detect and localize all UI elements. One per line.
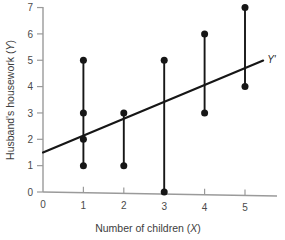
regression-scatter-chart: 01234567 012345 Y' Number of children (X… [0,0,285,240]
regression-line [43,61,263,153]
x-tick-label: 3 [161,201,167,212]
data-point [80,162,87,169]
data-point [80,136,87,143]
x-tick-label: 1 [81,200,87,211]
x-tick-label: 2 [121,200,127,211]
x-axis-line [43,192,277,196]
plot-area: 01234567 012345 Y' Number of children (X… [0,0,285,240]
axes-group [43,7,277,196]
y-tick-label: 7 [27,2,33,13]
y-axis-ticks [37,8,43,192]
y-axis-title: Husband's housework (Y) [4,40,16,160]
regression-line-label: Y' [267,54,277,65]
data-point [80,109,87,116]
x-tick-label: 4 [202,202,208,213]
x-tick-label: 0 [40,199,46,210]
y-tick-label: 1 [27,160,33,171]
data-point [120,162,127,169]
y-tick-label: 4 [27,81,33,92]
data-point [161,189,168,196]
data-point [201,30,208,37]
y-tick-label: 5 [27,55,33,66]
residual-segments [83,8,245,192]
data-point [80,57,87,64]
y-axis-tick-labels: 01234567 [27,2,33,197]
x-axis-title: Number of children (X) [95,222,201,234]
y-tick-label: 3 [27,108,33,119]
data-point [201,109,208,116]
data-point [161,57,168,64]
data-point [242,83,249,90]
y-tick-label: 0 [27,187,33,198]
data-point [242,4,249,11]
data-point [120,109,127,116]
y-tick-label: 6 [27,29,33,40]
x-axis-tick-labels: 012345 [40,199,248,213]
y-tick-label: 2 [27,134,33,145]
x-tick-label: 5 [242,202,248,213]
